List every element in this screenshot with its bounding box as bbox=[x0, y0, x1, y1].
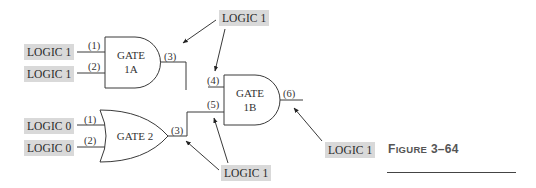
gate-1b-pin-4: (4) bbox=[207, 75, 219, 87]
annotation-top-label: LOGIC 1 bbox=[219, 10, 269, 26]
gate-1a-output-wire bbox=[160, 62, 186, 90]
caption-number: 3–64 bbox=[431, 142, 459, 156]
arrow-right-to-gate1b-output bbox=[294, 108, 322, 141]
gate-1a-pin-2: (2) bbox=[88, 61, 100, 73]
annotation-right-label: LOGIC 1 bbox=[325, 142, 375, 158]
gate-2-pin-1: (1) bbox=[84, 114, 96, 126]
gate-2-name: GATE 2 bbox=[112, 129, 158, 143]
gate-1a-input-2-label: LOGIC 1 bbox=[24, 66, 74, 82]
arrow-top-to-gate1b-input4 bbox=[215, 29, 225, 71]
caption-smallcaps: IGURE bbox=[396, 144, 428, 155]
gate-1b-name-line1: GATE bbox=[229, 86, 271, 100]
gate-2-pin-3: (3) bbox=[171, 125, 183, 137]
gate-1a-input-1-label: LOGIC 1 bbox=[24, 44, 74, 60]
gate-1b-name-line2: 1B bbox=[229, 100, 271, 114]
gate-1b-pin-5: (5) bbox=[207, 99, 219, 111]
figure-caption: FIGURE 3–64 bbox=[388, 142, 459, 156]
gate-1a-pin-3: (3) bbox=[164, 51, 176, 63]
gate-1a-name-line2: 1A bbox=[110, 62, 152, 76]
caption-prefix: F bbox=[388, 142, 396, 156]
gate-2-pin-2: (2) bbox=[84, 135, 96, 147]
gate-1b-pin-6: (6) bbox=[283, 88, 295, 100]
gate-2-input-1-label: LOGIC 0 bbox=[24, 118, 74, 134]
gate-2-input-2-label: LOGIC 0 bbox=[24, 140, 74, 156]
gate-1a-pin-1: (1) bbox=[88, 40, 100, 52]
arrow-top-to-gate1a-output bbox=[183, 20, 216, 43]
gate-1a-name-line1: GATE bbox=[110, 48, 152, 62]
arrow-bottom-to-gate2-output bbox=[186, 141, 219, 170]
caption-underline bbox=[387, 172, 516, 173]
annotation-bottom-label: LOGIC 1 bbox=[221, 165, 271, 181]
